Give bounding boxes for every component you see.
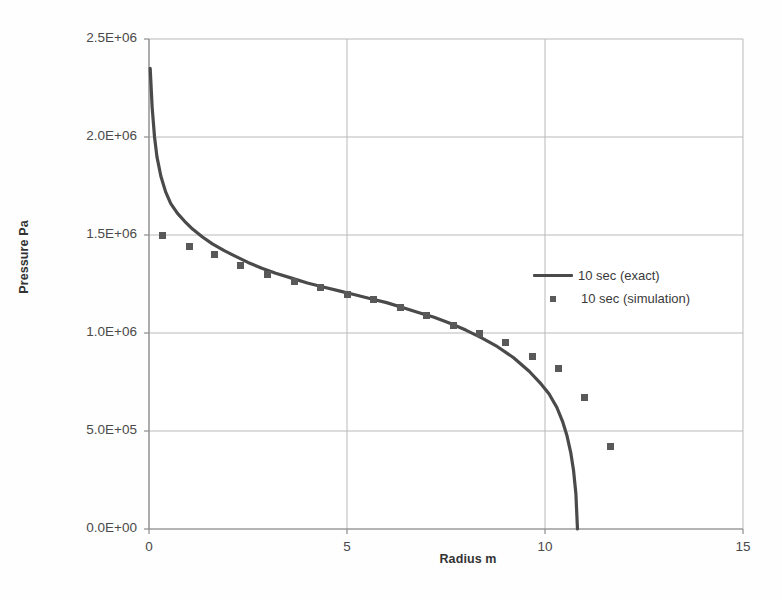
y-tick-label: 5.0E+05 xyxy=(45,422,137,437)
chart-figure: Pressure Pa Radius m 0.0E+005.0E+051.0E+… xyxy=(0,0,782,600)
legend-square-swatch-icon xyxy=(531,296,575,302)
data-marker xyxy=(370,296,377,303)
legend-line-swatch-icon xyxy=(531,274,575,278)
legend-item-exact: 10 sec (exact) xyxy=(531,264,690,287)
data-marker xyxy=(555,365,562,372)
data-marker xyxy=(344,291,351,298)
data-marker xyxy=(159,232,166,239)
chart-legend: 10 sec (exact) 10 sec (simulation) xyxy=(531,264,690,310)
data-marker xyxy=(397,304,404,311)
data-marker xyxy=(476,330,483,337)
legend-item-simulation: 10 sec (simulation) xyxy=(531,287,690,310)
x-tick-label: 15 xyxy=(713,539,773,554)
data-marker xyxy=(581,394,588,401)
y-tick-label: 0.0E+00 xyxy=(45,520,137,535)
data-marker xyxy=(529,353,536,360)
legend-label-exact: 10 sec (exact) xyxy=(575,268,660,283)
y-axis-title: Pressure Pa xyxy=(17,197,31,317)
y-tick-label: 1.0E+06 xyxy=(45,324,137,339)
x-tick-label: 5 xyxy=(317,539,377,554)
data-marker xyxy=(502,339,509,346)
data-marker xyxy=(423,312,430,319)
data-marker xyxy=(317,284,324,291)
y-axis-title-wrap: Pressure Pa xyxy=(4,0,38,600)
data-marker xyxy=(450,322,457,329)
x-tick-label: 0 xyxy=(119,539,179,554)
data-marker xyxy=(186,243,193,250)
x-tick-label: 10 xyxy=(515,539,575,554)
y-tick-label: 2.0E+06 xyxy=(45,128,137,143)
data-marker xyxy=(211,251,218,258)
data-marker xyxy=(237,262,244,269)
data-marker xyxy=(607,443,614,450)
data-marker xyxy=(264,271,271,278)
x-axis-title: Radius m xyxy=(398,552,538,566)
y-tick-label: 2.5E+06 xyxy=(45,30,137,45)
legend-label-simulation: 10 sec (simulation) xyxy=(575,291,690,306)
y-tick-label: 1.5E+06 xyxy=(45,226,137,241)
data-marker xyxy=(291,278,298,285)
